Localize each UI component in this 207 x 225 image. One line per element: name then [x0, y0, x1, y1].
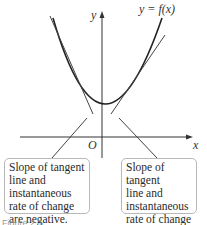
- curve-label: y = f(x): [139, 3, 175, 15]
- x-axis-label: x: [193, 139, 198, 151]
- pointer-right: [119, 118, 157, 158]
- annotation-line: line and: [9, 174, 85, 187]
- annotation-line: Slope of tangent: [126, 161, 192, 187]
- pointer-left: [52, 118, 87, 158]
- x-axis-arrow-icon: [186, 135, 193, 140]
- annotation-line: rate of change: [126, 213, 192, 225]
- y-axis-arrow-icon: [100, 11, 105, 18]
- annotation-line: instantaneous: [126, 200, 192, 213]
- annotation-line: Slope of tangent: [9, 161, 85, 174]
- origin-label: O: [88, 139, 97, 151]
- figure-caption: Figure 2.1: [2, 218, 43, 225]
- tangent-line-left: [50, 16, 93, 114]
- tangent-line-right: [111, 35, 165, 114]
- annotation-positive: Slope of tangent line and instantaneous …: [121, 158, 197, 214]
- annotation-negative: Slope of tangent line and instantaneous …: [4, 158, 90, 214]
- annotation-line: instantaneous: [9, 187, 85, 200]
- y-axis-label: y: [91, 9, 96, 21]
- annotation-line: line and: [126, 187, 192, 200]
- annotation-line: rate of change: [9, 200, 85, 213]
